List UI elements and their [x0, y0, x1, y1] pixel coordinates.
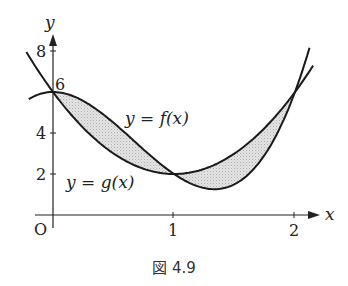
y-axis-arrow-icon — [49, 34, 57, 46]
figure-plot: y x O 1 2 2 4 8 6 y = f(x) y = g(x) — [0, 0, 348, 286]
y-axis-label: y — [44, 12, 55, 32]
g-curve-label: y = g(x) — [65, 172, 134, 192]
y-tick-4: 4 — [36, 124, 46, 143]
x-axis-arrow-icon — [308, 211, 320, 219]
y-tick-2: 2 — [36, 165, 46, 184]
y-tick-8: 8 — [36, 42, 46, 61]
x-tick-2: 2 — [289, 221, 299, 240]
intersection-label-6: 6 — [55, 75, 65, 94]
x-axis-label: x — [325, 204, 335, 224]
f-curve-label: y = f(x) — [124, 108, 189, 128]
x-tick-1: 1 — [168, 221, 178, 240]
figure-caption: 図 4.9 — [0, 256, 348, 277]
origin-label: O — [34, 220, 47, 239]
